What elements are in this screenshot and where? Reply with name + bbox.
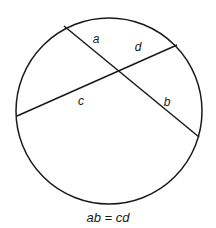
label-a: a [93, 32, 100, 46]
chord-cd [17, 45, 177, 116]
label-b: b [164, 95, 171, 109]
label-d: d [135, 40, 142, 54]
caption-equation: ab = cd [86, 210, 130, 225]
chord-ab [64, 26, 199, 137]
chord-diagram: a d c b ab = cd [0, 0, 216, 228]
label-c: c [78, 94, 84, 108]
